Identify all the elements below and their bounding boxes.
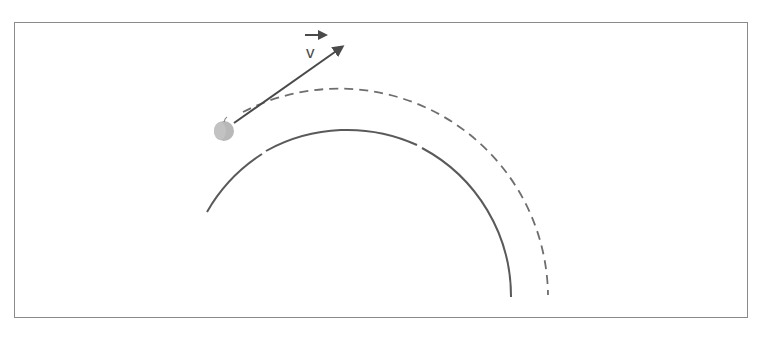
velocity-label: v (305, 35, 326, 62)
velocity-label-text: v (306, 43, 315, 62)
solid-arc (207, 130, 511, 297)
velocity-vector-arrow (234, 47, 342, 123)
apple-icon (214, 117, 234, 141)
physics-diagram: v (0, 0, 768, 346)
dashed-trajectory-arc (243, 89, 548, 295)
